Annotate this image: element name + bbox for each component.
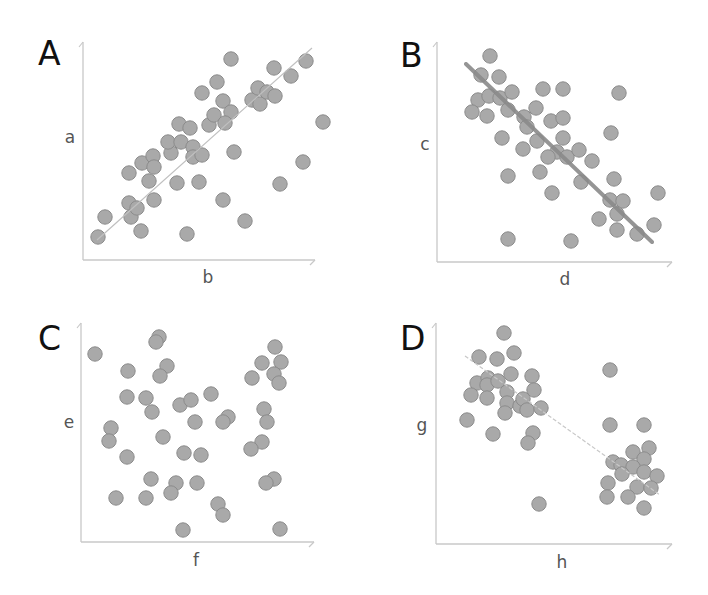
data-point [273,177,287,191]
data-point [556,131,570,145]
data-point [572,143,586,157]
data-point [176,523,190,537]
data-point [273,522,287,536]
data-point [299,54,313,68]
data-point [216,508,230,522]
data-point [161,135,175,149]
data-point [227,145,241,159]
data-point [104,421,118,435]
data-point [604,126,618,140]
data-point [224,52,238,66]
data-point [498,406,512,420]
data-point [183,121,197,135]
data-point [192,175,206,189]
data-point [651,186,665,200]
data-point [120,390,134,404]
x-axis-tick [667,544,672,549]
data-point [556,82,570,96]
y-axis-label: g [417,415,428,435]
data-point [501,232,515,246]
data-point [170,176,184,190]
data-point [585,154,599,168]
data-point [238,214,252,228]
data-points [460,326,664,515]
data-point [296,155,310,169]
data-point [607,172,621,186]
data-point [483,49,497,63]
data-point [257,402,271,416]
data-points [88,330,288,537]
data-point [272,376,286,390]
data-point [216,193,230,207]
x-axis-tick [309,542,314,547]
data-point [504,367,518,381]
panel-label: C [38,319,61,358]
x-axis-tick [667,262,672,267]
x-axis-label: f [193,550,200,570]
data-point [216,415,230,429]
data-point [464,388,478,402]
data-point [564,234,578,248]
data-point [497,326,511,340]
panel-b: Bdc [400,36,672,289]
panel-a: Aba [38,34,330,287]
data-point [612,86,626,100]
data-point [490,352,504,366]
data-point [177,446,191,460]
data-point [472,350,486,364]
data-point [139,391,153,405]
data-points [465,49,665,248]
data-point [460,413,474,427]
data-point [536,82,550,96]
data-point [621,490,635,504]
data-point [603,363,617,377]
data-point [501,169,515,183]
data-point [492,70,506,84]
data-point [184,393,198,407]
x-axis-tick [310,260,315,265]
data-point [149,335,163,349]
data-point [218,116,232,130]
data-point [480,109,494,123]
data-point [616,194,630,208]
data-point [267,61,281,75]
data-point [532,497,546,511]
data-points [91,52,330,244]
data-point [637,501,651,515]
data-point [134,224,148,238]
data-point [98,210,112,224]
data-point [88,347,102,361]
y-axis-label: a [65,127,75,147]
panel-c: Cfe [38,319,314,570]
data-point [188,415,202,429]
data-point [486,427,500,441]
data-point [153,369,167,383]
data-point [210,75,224,89]
data-point [637,465,651,479]
regression-line [97,48,312,240]
data-point [541,150,555,164]
panel-label: D [400,319,425,358]
data-point [610,223,624,237]
data-point [139,491,153,505]
data-point [91,230,105,244]
data-point [147,193,161,207]
x-axis-label: d [560,269,571,289]
data-point [102,434,116,448]
data-point [495,131,509,145]
data-point [121,364,135,378]
data-point [190,476,204,490]
panel-d: Dhg [400,319,672,572]
data-point [520,403,534,417]
panel-label: A [38,34,61,73]
data-point [142,174,156,188]
data-point [244,442,258,456]
data-point [180,227,194,241]
data-point [533,165,547,179]
data-point [120,450,134,464]
data-point [480,391,494,405]
data-point [122,166,136,180]
data-point [194,448,208,462]
data-point [603,418,617,432]
data-point [109,491,123,505]
